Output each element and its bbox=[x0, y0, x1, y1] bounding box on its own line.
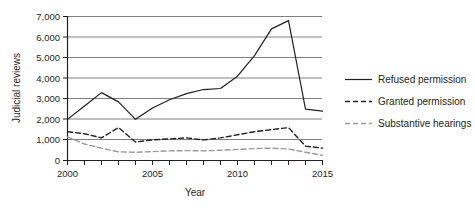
x-tick-label-2015: 2015 bbox=[312, 168, 333, 179]
series-line-refused-permission bbox=[68, 21, 323, 120]
legend-label-refused-permission: Refused permission bbox=[378, 74, 466, 85]
y-tick-label-4000: 4,000 bbox=[36, 73, 60, 84]
chart-legend: Refused permission Granted permission Su… bbox=[345, 74, 471, 129]
legend-label-granted-permission: Granted permission bbox=[378, 96, 465, 107]
legend-label-substantive-hearings: Substantive hearings bbox=[378, 118, 471, 129]
y-tick-label-7000: 7,000 bbox=[36, 11, 60, 22]
y-tick-labels: 7,000 6,000 5,000 4,000 3,000 2,000 1,00… bbox=[36, 11, 60, 166]
x-tick-label-2005: 2005 bbox=[142, 168, 163, 179]
y-tick-label-5000: 5,000 bbox=[36, 52, 60, 63]
series-line-granted-permission bbox=[68, 128, 323, 149]
x-axis-title: Year bbox=[185, 187, 206, 198]
line-chart: 7,000 6,000 5,000 4,000 3,000 2,000 1,00… bbox=[0, 0, 475, 221]
chart-canvas: 7,000 6,000 5,000 4,000 3,000 2,000 1,00… bbox=[0, 0, 475, 221]
series-group bbox=[68, 21, 323, 156]
y-tick-label-1000: 1,000 bbox=[36, 134, 60, 145]
x-tick-label-2000: 2000 bbox=[57, 168, 78, 179]
x-tick-labels: 2000 2005 2010 2015 bbox=[57, 168, 333, 179]
y-tick-label-6000: 6,000 bbox=[36, 32, 60, 43]
y-tick-label-2000: 2,000 bbox=[36, 114, 60, 125]
y-ticks bbox=[63, 17, 67, 161]
y-axis-title: Judicial reviews bbox=[11, 53, 22, 123]
y-tick-label-3000: 3,000 bbox=[36, 93, 60, 104]
legend-item-refused-permission[interactable]: Refused permission bbox=[345, 74, 466, 85]
legend-item-substantive-hearings[interactable]: Substantive hearings bbox=[345, 118, 471, 129]
legend-item-granted-permission[interactable]: Granted permission bbox=[345, 96, 465, 107]
y-tick-label-0: 0 bbox=[55, 155, 60, 166]
y-gridlines bbox=[67, 17, 322, 140]
x-tick-label-2010: 2010 bbox=[227, 168, 248, 179]
